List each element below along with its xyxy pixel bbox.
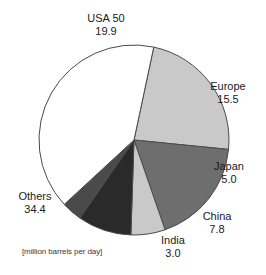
pie-label-japan-name: Japan xyxy=(200,160,258,173)
pie-label-india: India 3.0 xyxy=(146,234,200,260)
pie-label-china: China 7.8 xyxy=(188,210,246,236)
pie-label-others: Others 34.4 xyxy=(4,190,66,216)
pie-label-europe-value: 15.5 xyxy=(196,93,260,106)
pie-label-japan-value: 5.0 xyxy=(200,173,258,186)
pie-label-others-name: Others xyxy=(4,190,66,203)
pie-label-japan: Japan 5.0 xyxy=(200,160,258,186)
unit-note: [million barrels per day] xyxy=(22,247,102,257)
pie-chart-figure: USA 50 19.9 Europe 15.5 Japan 5.0 China … xyxy=(0,0,266,275)
pie-label-usa-name: USA 50 xyxy=(66,12,146,25)
pie-label-europe-name: Europe xyxy=(196,80,260,93)
pie-label-usa-value: 19.9 xyxy=(66,25,146,38)
pie-label-india-value: 3.0 xyxy=(146,247,200,260)
pie-label-others-value: 34.4 xyxy=(4,203,66,216)
pie-label-china-name: China xyxy=(188,210,246,223)
pie-label-usa: USA 50 19.9 xyxy=(66,12,146,38)
pie-label-india-name: India xyxy=(146,234,200,247)
pie-slice-group xyxy=(39,45,229,235)
pie-label-europe: Europe 15.5 xyxy=(196,80,260,106)
